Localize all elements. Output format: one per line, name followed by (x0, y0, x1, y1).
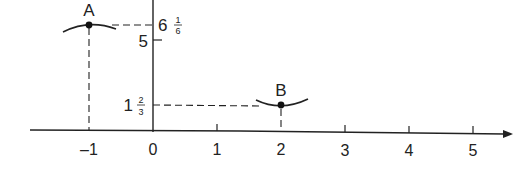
y-label-a-num: 1 (175, 15, 180, 25)
y-label-a-den: 6 (175, 26, 180, 36)
x-tick-label: 3 (341, 142, 350, 159)
y-label-5: 5 (139, 32, 148, 51)
x-axis (240, 131, 505, 134)
x-tick-label: –1 (80, 141, 98, 158)
x-axis (30, 130, 240, 131)
x-tick-label: 4 (405, 142, 414, 159)
y-label-b-den: 3 (138, 107, 143, 117)
guide-lines (89, 25, 281, 131)
x-tick-label: 5 (469, 142, 478, 159)
y-label-b-whole: 1 (124, 96, 133, 115)
point-a (86, 22, 93, 29)
x-axis-arrow-icon (503, 130, 513, 138)
point-a-label: A (83, 1, 95, 20)
coordinate-diagram: –1 0 1 2 3 4 5 5 6 1 6 1 2 3 A B (0, 0, 531, 169)
y-label-a-whole: 6 (158, 16, 167, 35)
y-label-b-num: 2 (138, 95, 143, 105)
point-b-label: B (275, 81, 286, 100)
x-tick-label: 2 (277, 141, 286, 158)
x-tick-label: 1 (213, 141, 222, 158)
x-tick-label: 0 (149, 141, 158, 158)
point-b (278, 102, 285, 109)
